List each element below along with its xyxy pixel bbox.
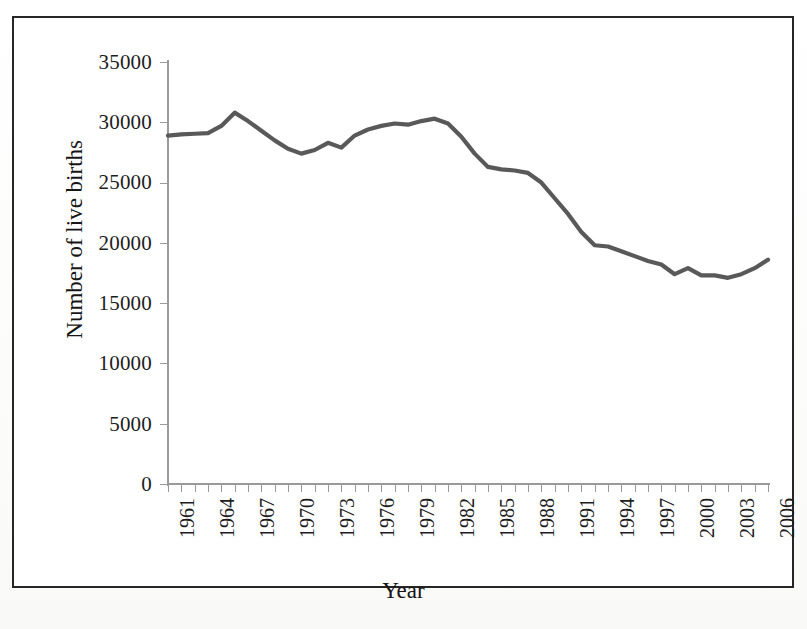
x-axis-tick-2000 xyxy=(688,485,689,492)
x-tick-label-1979: 1979 xyxy=(416,498,439,538)
x-axis-tick-1987 xyxy=(515,485,516,492)
x-axis-tick-1999 xyxy=(675,485,676,492)
y-axis-tick-0 xyxy=(160,484,168,485)
x-axis-tick-1986 xyxy=(501,485,502,492)
x-axis-tick-1993 xyxy=(595,485,596,492)
x-axis-title: Year xyxy=(0,578,807,604)
y-tick-label-30000: 30000 xyxy=(2,110,152,135)
x-axis-tick-1976 xyxy=(368,485,369,492)
x-axis-tick-1963 xyxy=(195,485,196,492)
y-axis-tick-25000 xyxy=(160,183,168,184)
x-axis-tick-1975 xyxy=(355,485,356,492)
x-axis-tick-1972 xyxy=(315,485,316,492)
x-axis-tick-1985 xyxy=(488,485,489,492)
x-axis-tick-1989 xyxy=(541,485,542,492)
y-tick-label-0: 0 xyxy=(2,472,152,497)
x-axis-tick-1968 xyxy=(261,485,262,492)
x-axis-tick-1978 xyxy=(395,485,396,492)
x-axis-tick-1973 xyxy=(328,485,329,492)
x-axis-tick-1966 xyxy=(235,485,236,492)
y-axis-tick-20000 xyxy=(160,243,168,244)
x-axis-tick-1971 xyxy=(301,485,302,492)
x-tick-label-1988: 1988 xyxy=(536,498,559,538)
x-axis-tick-1964 xyxy=(208,485,209,492)
x-tick-label-1970: 1970 xyxy=(296,498,319,538)
x-tick-label-1994: 1994 xyxy=(616,498,639,538)
x-tick-label-1961: 1961 xyxy=(176,498,199,538)
x-axis-tick-1998 xyxy=(661,485,662,492)
y-axis-line xyxy=(167,60,169,486)
x-tick-label-1973: 1973 xyxy=(336,498,359,538)
y-axis-tick-10000 xyxy=(160,363,168,364)
y-axis-tick-5000 xyxy=(160,424,168,425)
x-tick-label-2000: 2000 xyxy=(696,498,719,538)
x-axis-tick-1990 xyxy=(555,485,556,492)
y-axis-title: Number of live births xyxy=(62,140,88,339)
x-axis-tick-1982 xyxy=(448,485,449,492)
x-axis-tick-1992 xyxy=(581,485,582,492)
x-axis-tick-2002 xyxy=(715,485,716,492)
x-axis-tick-1980 xyxy=(421,485,422,492)
x-tick-label-1991: 1991 xyxy=(576,498,599,538)
x-tick-label-1976: 1976 xyxy=(376,498,399,538)
x-axis-tick-1979 xyxy=(408,485,409,492)
x-axis-tick-1977 xyxy=(381,485,382,492)
x-tick-label-1997: 1997 xyxy=(656,498,679,538)
x-axis-tick-1991 xyxy=(568,485,569,492)
x-axis-tick-1997 xyxy=(648,485,649,492)
x-axis-tick-1988 xyxy=(528,485,529,492)
y-axis-title-wrap: Number of live births xyxy=(62,140,92,440)
x-axis-tick-2006 xyxy=(768,485,769,492)
x-tick-label-1964: 1964 xyxy=(216,498,239,538)
x-axis-tick-1961 xyxy=(168,485,169,492)
x-axis-tick-1984 xyxy=(475,485,476,492)
x-axis-line xyxy=(167,483,770,485)
y-axis-tick-30000 xyxy=(160,122,168,123)
x-axis-tick-1995 xyxy=(621,485,622,492)
x-axis-tick-1970 xyxy=(288,485,289,492)
page-bottom-scrap-text xyxy=(18,604,418,622)
x-axis-tick-2004 xyxy=(741,485,742,492)
y-axis-tick-35000 xyxy=(160,62,168,63)
x-axis-tick-1967 xyxy=(248,485,249,492)
x-tick-label-1985: 1985 xyxy=(496,498,519,538)
x-tick-label-2003: 2003 xyxy=(736,498,759,538)
y-axis-tick-15000 xyxy=(160,303,168,304)
x-tick-label-1967: 1967 xyxy=(256,498,279,538)
x-axis-tick-2003 xyxy=(728,485,729,492)
x-axis-tick-2005 xyxy=(755,485,756,492)
x-axis-tick-1974 xyxy=(341,485,342,492)
x-axis-tick-1969 xyxy=(275,485,276,492)
x-axis-tick-1981 xyxy=(435,485,436,492)
scanned-figure-page: 35000 30000 25000 20000 15000 10000 5000… xyxy=(0,0,807,629)
x-axis-tick-1962 xyxy=(181,485,182,492)
x-axis-tick-1965 xyxy=(221,485,222,492)
x-axis-tick-1996 xyxy=(635,485,636,492)
x-tick-label-2006: 2006 xyxy=(776,498,799,538)
x-axis-tick-1994 xyxy=(608,485,609,492)
x-axis-tick-2001 xyxy=(701,485,702,492)
x-tick-label-1982: 1982 xyxy=(456,498,479,538)
x-axis-tick-1983 xyxy=(461,485,462,492)
y-tick-label-35000: 35000 xyxy=(2,50,152,75)
